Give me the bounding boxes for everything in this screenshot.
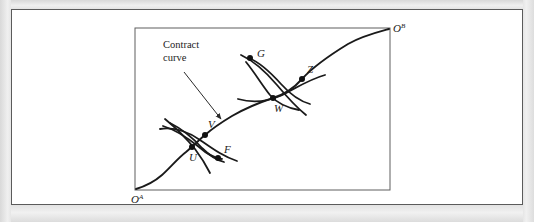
- contract-curve-annotation-line2: curve: [163, 52, 187, 63]
- edgeworth-box-diagram: Contract curve O A O B GZWVUF: [0, 0, 534, 222]
- origin-b-superscript: B: [401, 22, 406, 30]
- indifference-curve-curve-B-upper: [238, 75, 325, 101]
- figure-root: Contract curve O A O B GZWVUF: [0, 0, 534, 222]
- allocation-point-u: [189, 144, 195, 150]
- origin-b-label: O: [393, 22, 401, 34]
- contract-curve-annotation-line1: Contract: [163, 39, 199, 50]
- allocation-point-label-u: U: [189, 151, 198, 163]
- allocation-point-g: [247, 55, 253, 61]
- contract-curve-leader-line: [184, 72, 221, 119]
- origin-a-superscript: A: [138, 193, 144, 201]
- allocation-point-label-w: W: [274, 102, 284, 114]
- indifference-curve-curve-lens-upper-lower: [246, 62, 299, 110]
- allocation-point-label-g: G: [257, 47, 265, 59]
- allocation-point-z: [299, 76, 305, 82]
- allocation-point-w: [270, 95, 276, 101]
- origin-a-label: O: [131, 193, 139, 205]
- allocation-point-label-f: F: [223, 143, 231, 155]
- allocation-point-v: [202, 132, 208, 138]
- allocation-point-label-z: Z: [307, 63, 314, 75]
- allocation-point-f: [215, 155, 221, 161]
